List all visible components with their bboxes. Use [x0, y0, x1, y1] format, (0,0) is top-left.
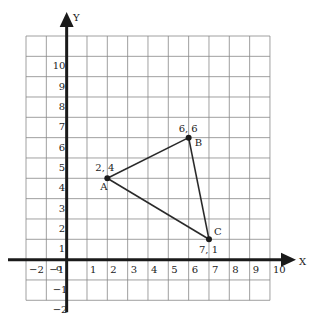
y-tick-label: 7: [59, 121, 65, 132]
segment-bc: [189, 138, 209, 240]
y-tick-label: 2: [59, 223, 65, 234]
x-tick-label: 7: [212, 264, 218, 275]
coordinate-plane: −2−11234567891010987654321−1−2 2, 4A6, 6…: [0, 0, 316, 323]
y-tick-label: 8: [59, 101, 65, 112]
segment-ac: [107, 178, 209, 239]
vertex-label-c: C: [214, 226, 222, 237]
y-tick-label: 9: [59, 81, 65, 92]
y-tick-label: 6: [59, 142, 65, 153]
y-axis-arrow-icon: [60, 12, 74, 27]
coordinate-label-c: 7, 1: [199, 244, 218, 255]
y-tick-label: 4: [59, 182, 65, 193]
y-tick-label: 10: [53, 60, 66, 71]
vertex-label-a: A: [99, 181, 108, 192]
y-tick-label: −2: [53, 304, 68, 315]
x-tick-label: 5: [171, 264, 177, 275]
y-tick-label: −1: [53, 284, 68, 295]
x-tick-label: 1: [90, 264, 96, 275]
x-axis-label: X: [299, 256, 307, 267]
point-b: [186, 135, 192, 141]
y-tick-label: 1: [59, 243, 65, 254]
point-c: [206, 236, 212, 242]
x-tick-label: −2: [29, 264, 44, 275]
y-tick-label: 3: [59, 203, 65, 214]
y-tick-label: 5: [59, 162, 65, 173]
x-tick-label: 9: [253, 264, 259, 275]
x-tick-label: 4: [151, 264, 157, 275]
x-tick-label: 3: [131, 264, 137, 275]
triangle-diagram: −2−11234567891010987654321−1−2 2, 4A6, 6…: [0, 0, 316, 323]
x-tick-label: 10: [273, 264, 286, 275]
triangle-abc: 2, 4A6, 6B7, 1C: [95, 123, 222, 256]
origin-label: o: [56, 262, 62, 273]
x-tick-label: 8: [232, 264, 238, 275]
vertex-label-b: B: [195, 137, 202, 148]
x-tick-label: 6: [192, 264, 198, 275]
coordinate-label-a: 2, 4: [95, 162, 114, 173]
y-axis-label: Y: [72, 12, 80, 23]
x-tick-label: 2: [110, 264, 116, 275]
coordinate-label-b: 6, 6: [179, 123, 198, 134]
